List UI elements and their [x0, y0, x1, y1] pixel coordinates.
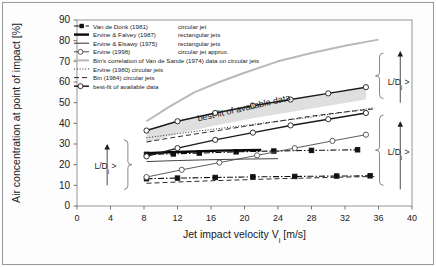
y-tick-label: 60 [59, 76, 71, 87]
x-tick-label: 12 [172, 213, 182, 223]
legend-label: Bin (1984) circular jets [93, 74, 155, 81]
legend-label: Ervine (1998) [93, 48, 130, 55]
chart-figure: 04812162024283236400102030405060708090Va… [0, 0, 436, 267]
x-tick-label: 36 [373, 213, 383, 223]
data-point [175, 176, 179, 180]
x-tick-label: 24 [273, 213, 283, 223]
data-point [144, 128, 149, 133]
y-tick-label: 90 [59, 14, 71, 25]
legend-note: rectangular jets [178, 40, 220, 47]
y-tick-label: 0 [64, 200, 70, 211]
y-tick-label: 20 [59, 159, 71, 170]
y-tick-label: 10 [59, 180, 71, 191]
x-tick-label: 0 [74, 213, 79, 223]
y-tick-label: 30 [59, 138, 71, 149]
x-tick-label: 40 [407, 213, 417, 223]
data-point [175, 146, 180, 151]
data-point [144, 174, 149, 179]
data-point [213, 137, 218, 142]
legend-label: best-fit of available data [93, 83, 159, 90]
legend-label: Bin's correlation of Van de Sande (1974)… [93, 57, 259, 64]
y-tick-label: 50 [59, 97, 71, 108]
x-tick-label: 32 [340, 213, 350, 223]
legend-label: Ervine & Elsawy (1975) [93, 40, 157, 47]
legend-label: Ervine & Falvey (1987) [93, 31, 156, 38]
data-point [330, 138, 335, 143]
legend-label: Ervine (1980) circular jets [93, 66, 163, 73]
data-point [250, 130, 255, 135]
y-axis-title: Air concentration at point of impact [%] [10, 23, 22, 203]
data-point [179, 167, 184, 172]
data-point [309, 148, 313, 152]
data-point [217, 160, 222, 165]
legend-label: Van de Donk (1981) [93, 23, 148, 30]
legend-note: circular jet [178, 23, 206, 30]
x-tick-label: 16 [206, 213, 216, 223]
legend-marker [78, 49, 83, 54]
x-tick-label: 4 [108, 213, 113, 223]
air-concentration-chart: 04812162024283236400102030405060708090Va… [0, 0, 436, 267]
y-tick-label: 40 [59, 118, 71, 129]
x-tick-label: 20 [239, 213, 249, 223]
data-point [254, 153, 259, 158]
data-point [288, 123, 293, 128]
x-tick-label: 28 [306, 213, 316, 223]
legend-note: rectangular jets [178, 31, 220, 38]
data-point [355, 148, 359, 152]
data-point [363, 85, 368, 90]
data-point [363, 132, 368, 137]
data-point [363, 110, 368, 115]
data-point [326, 91, 331, 96]
x-tick-label: 8 [141, 213, 146, 223]
legend-marker [80, 24, 84, 28]
y-tick-label: 70 [59, 56, 71, 67]
legend-note: circular jet approx. [178, 48, 229, 55]
data-point [213, 175, 217, 179]
data-point [175, 119, 180, 124]
legend-marker [78, 84, 83, 89]
data-point [144, 154, 149, 159]
data-point [368, 174, 372, 178]
data-point [292, 146, 297, 151]
data-point [251, 175, 255, 179]
y-tick-label: 80 [59, 35, 71, 46]
data-point [326, 117, 331, 122]
